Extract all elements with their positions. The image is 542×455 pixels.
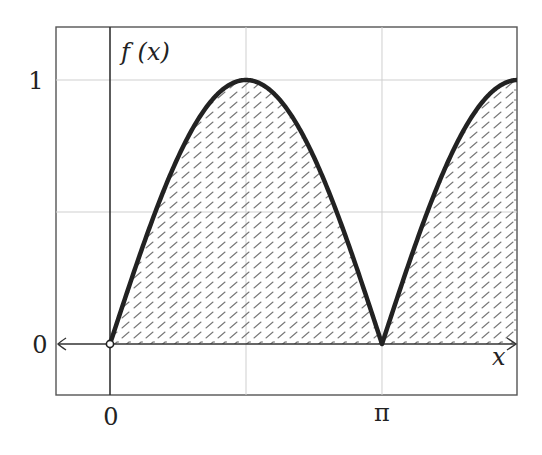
chart: f (x) x 1 0 0 π (0, 0, 542, 455)
y-axis-label: f (x) (119, 38, 170, 66)
x-axis-label: x (492, 343, 506, 371)
ytick-label-0: 0 (32, 331, 47, 359)
ytick-label-1: 1 (28, 67, 43, 95)
xtick-label-0: 0 (103, 403, 118, 431)
origin-marker (106, 340, 113, 347)
xtick-label-pi: π (374, 399, 390, 427)
